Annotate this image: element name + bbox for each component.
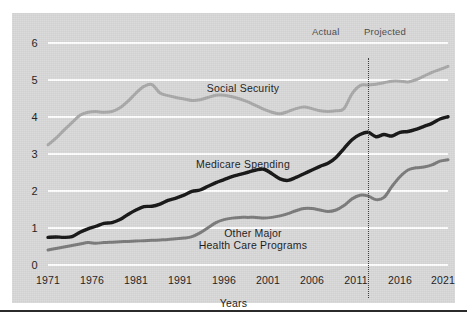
series-label-medicare-spending: Medicare Spending — [178, 158, 308, 170]
series-line-medicare-spending — [48, 117, 448, 238]
series-label-other-major-1: Other Major — [188, 227, 318, 239]
x-tick-1981: 1981 — [116, 275, 156, 286]
plot-area: Actual Projected Social Security Medicar… — [48, 42, 448, 264]
x-tick-2006: 2006 — [292, 275, 332, 286]
y-tick-6: 6 — [12, 38, 38, 49]
y-tick-2: 2 — [12, 186, 38, 197]
y-tick-5: 5 — [12, 75, 38, 86]
x-tick-2016: 2016 — [380, 275, 420, 286]
y-tick-4: 4 — [12, 112, 38, 123]
y-tick-0: 0 — [12, 260, 38, 271]
x-tick-2011: 2011 — [336, 275, 376, 286]
y-tick-3: 3 — [12, 149, 38, 160]
chart-figure: 6 5 4 3 2 1 0 1971 1976 1981 1991 1996 2… — [0, 0, 467, 322]
x-tick-2021: 2021 — [423, 275, 463, 286]
bottom-rule — [0, 310, 467, 312]
gridline-0 — [48, 264, 448, 266]
x-axis-title: Years — [12, 297, 455, 309]
actual-projected-divider — [368, 58, 369, 298]
annotation-projected: Projected — [364, 26, 406, 37]
x-tick-2001: 2001 — [248, 275, 288, 286]
x-tick-1971: 1971 — [28, 275, 68, 286]
y-tick-1: 1 — [12, 223, 38, 234]
series-line-social-security — [48, 66, 448, 144]
x-tick-1991: 1991 — [160, 275, 200, 286]
x-tick-1976: 1976 — [72, 275, 112, 286]
x-tick-1996: 1996 — [204, 275, 244, 286]
series-label-other-major-2: Health Care Programs — [178, 239, 328, 251]
annotation-actual: Actual — [312, 26, 340, 37]
chart-panel: 6 5 4 3 2 1 0 1971 1976 1981 1991 1996 2… — [12, 13, 455, 303]
series-label-social-security: Social Security — [188, 82, 298, 94]
